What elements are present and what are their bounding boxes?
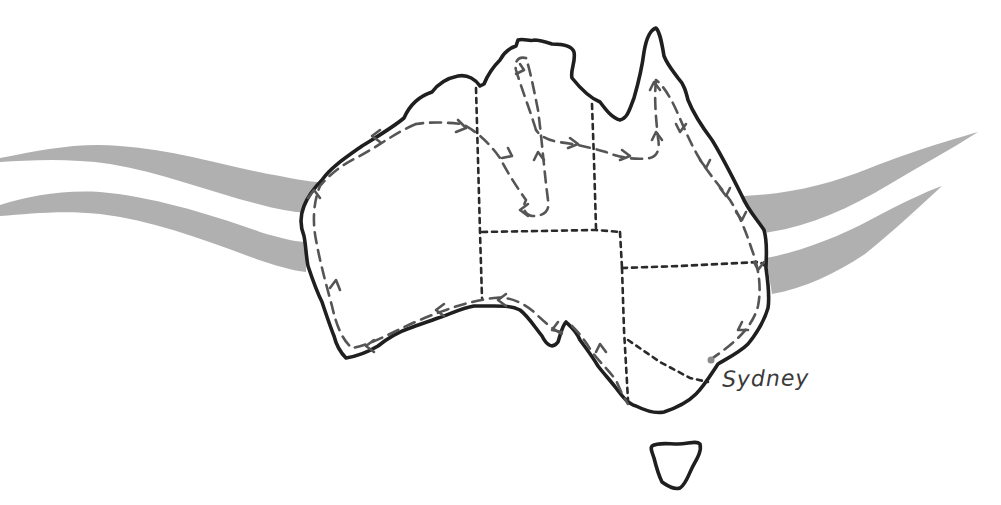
mainland-coastline xyxy=(301,28,769,413)
east-streak-top xyxy=(744,132,978,233)
sydney-label: Sydney xyxy=(722,365,810,392)
west-streaks xyxy=(0,145,322,272)
sydney-marker xyxy=(708,357,715,364)
australia-map xyxy=(0,0,1001,505)
tasmania-coastline xyxy=(651,442,700,488)
east-streaks xyxy=(744,132,978,294)
